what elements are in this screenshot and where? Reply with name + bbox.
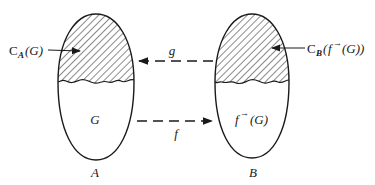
label-complement-b-close: (G))	[342, 41, 364, 56]
label-g-set: G	[90, 112, 100, 127]
label-complement-b-arrow: →	[333, 38, 342, 48]
arrow-g-label: g	[169, 43, 176, 58]
label-complement-b-c: C	[307, 41, 316, 56]
label-complement-b-sub: B	[315, 48, 322, 58]
arrow-g: g	[139, 43, 213, 61]
set-a	[58, 14, 134, 160]
label-set-b: B	[249, 165, 257, 180]
label-complement-a-sub: A	[17, 50, 24, 60]
label-image-f-of-g: f → (G)	[235, 108, 268, 127]
set-b	[215, 14, 289, 158]
arrow-f-label: f	[174, 126, 180, 141]
label-image-arg: (G)	[250, 112, 268, 127]
banach-schroeder-diagram: g f C A (G) C B ( f → (G)) G f → (G) A B	[0, 0, 375, 185]
label-set-a: A	[90, 165, 99, 180]
set-a-shaded-region	[58, 14, 134, 83]
arrow-f: f	[137, 121, 212, 141]
set-b-shaded-region	[215, 14, 289, 84]
label-complement-a-arg: (G)	[25, 43, 43, 58]
label-image-arrow: →	[240, 108, 249, 118]
label-complement-a-c: C	[9, 43, 18, 58]
